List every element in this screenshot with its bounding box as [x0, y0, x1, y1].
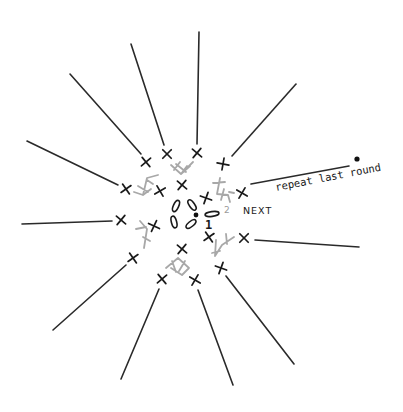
- chain-space-ray-5: [232, 84, 296, 156]
- chain-space-ray-2: [70, 74, 141, 154]
- chain-space-ray-12: [22, 221, 112, 224]
- single-crochet-x-icon: [198, 190, 213, 205]
- single-crochet-x-icon: [174, 241, 191, 258]
- single-crochet-x-icon: [138, 154, 155, 171]
- chain-stitch-oval-icon: [205, 211, 220, 218]
- single-crochet-x-icon: [213, 260, 228, 275]
- single-crochet-x-icon: [152, 183, 168, 199]
- chain-space-ray-7: [255, 240, 359, 247]
- single-crochet-x-icon: [125, 250, 142, 267]
- repeat-marker-dot-icon: [354, 156, 359, 161]
- chain-space-ray-1: [27, 141, 118, 185]
- previous-round-cluster-6: [212, 234, 234, 256]
- crochet-chart: 1 2 NEXT repeat last round: [0, 0, 403, 412]
- chain-stitch-oval-icon: [186, 199, 197, 212]
- single-crochet-x-icon: [187, 272, 203, 288]
- round-2-label: 2: [224, 205, 230, 215]
- chain-stitch-oval-icon: [171, 199, 181, 212]
- chain-space-ray-8: [226, 276, 294, 364]
- previous-round-cluster-3: [213, 178, 234, 202]
- chain-space-ray-3: [131, 44, 164, 145]
- chain-space-ray-10: [121, 289, 159, 379]
- chain-space-ray-9: [198, 290, 233, 385]
- single-crochet-x-icon: [174, 177, 191, 194]
- chain-space-ray-11: [53, 265, 126, 330]
- single-crochet-x-icon: [118, 181, 135, 198]
- chain-stitch-oval-icon: [170, 216, 178, 229]
- previous-round-cluster-1: [134, 175, 158, 195]
- previous-round-stitches: [134, 162, 234, 275]
- single-crochet-x-icon: [234, 185, 250, 201]
- single-crochet-x-icon: [154, 271, 171, 288]
- single-crochet-x-icon: [146, 218, 162, 234]
- next-round-label: NEXT: [243, 205, 272, 216]
- previous-round-cluster-2: [171, 162, 193, 174]
- single-crochet-x-icon: [216, 157, 230, 171]
- single-crochet-x-icon: [113, 212, 130, 229]
- single-crochet-x-icon: [236, 230, 253, 247]
- round-1-label: 1: [205, 218, 212, 232]
- single-crochet-x-icon: [159, 146, 176, 163]
- chain-stitch-oval-icon: [185, 218, 198, 230]
- chain-space-ray-4: [197, 32, 199, 144]
- previous-round-cluster-4: [136, 221, 150, 248]
- previous-round-cluster-5: [166, 258, 189, 275]
- center-slip-stitch-icon: [194, 213, 199, 218]
- single-crochet-x-icon: [189, 145, 206, 162]
